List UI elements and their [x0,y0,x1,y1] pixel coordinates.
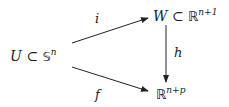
commutative-diagram: U ⊂ 𝕊n W ⊂ ℝn+1 ℝn+p i h f [0,0,229,107]
subset-symbol: ⊂ [172,8,184,24]
arrow-f [72,67,148,91]
reals-symbol: ℝ [156,87,166,102]
exponent: n [51,47,57,57]
arrow-label-h: h [174,46,182,59]
arrow-label-f: f [95,88,100,101]
arrow-label-i: i [95,12,99,25]
var-u: U [10,48,22,64]
arrow-i [72,18,148,43]
subset-symbol: ⊂ [26,48,38,64]
node-w-subset-r: W ⊂ ℝn+1 [153,8,217,23]
sphere-symbol: 𝕊 [42,49,50,64]
reals-symbol: ℝ [188,9,198,24]
exponent: n+1 [198,7,217,17]
node-u-subset-sphere: U ⊂ 𝕊n [10,48,57,63]
node-r-n-plus-p: ℝn+p [156,86,185,101]
var-w: W [153,8,167,24]
exponent: n+p [166,85,185,95]
